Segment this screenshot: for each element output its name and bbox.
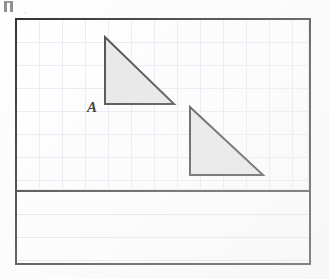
figure-frame: A — [15, 18, 311, 265]
scan-speckle — [95, 272, 97, 274]
staple-leg-left — [4, 1, 7, 12]
staple-leg-right — [10, 1, 13, 12]
triangle-layer — [17, 20, 313, 190]
scan-speckle — [24, 12, 26, 14]
triangle-a-shape[interactable] — [105, 37, 174, 104]
scan-speckle — [318, 196, 319, 198]
triangle-b-shape[interactable] — [190, 107, 263, 175]
triangle-a-label: A — [87, 100, 97, 115]
scan-speckle — [31, 16, 32, 17]
staple-mark-icon — [4, 1, 17, 13]
ruled-answer-region[interactable] — [17, 192, 309, 263]
scan-speckle — [18, 9, 19, 10]
scanned-page: A — [0, 0, 329, 279]
